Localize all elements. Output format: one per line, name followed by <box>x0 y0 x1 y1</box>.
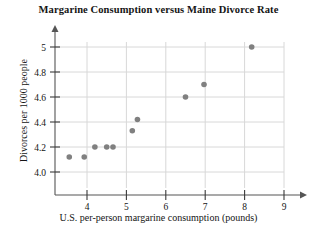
data-point-group <box>66 44 254 160</box>
data-point <box>201 82 207 88</box>
y-tick-label: 4.2 <box>34 143 46 153</box>
x-axis-arrow <box>300 192 307 199</box>
x-tick-label: 9 <box>282 202 287 212</box>
x-tick-label: 4 <box>85 202 90 212</box>
x-tick-label: 5 <box>124 202 129 212</box>
x-tick-label: 8 <box>242 202 247 212</box>
data-point <box>92 144 98 150</box>
gridlines <box>55 42 284 188</box>
x-tick-label: 7 <box>203 202 208 212</box>
data-point <box>81 154 87 160</box>
x-tick-label: 6 <box>163 202 168 212</box>
y-axis-arrow <box>52 25 59 32</box>
chart-figure: Margarine Consumption versus Maine Divor… <box>0 0 317 236</box>
data-point <box>104 144 110 150</box>
y-tick-labels: 4.04.24.44.64.85 <box>34 43 46 178</box>
data-point <box>183 94 189 100</box>
y-axis-label: Divorces per 1000 people <box>18 36 29 186</box>
x-axis-label: U.S. per-person margarine consumption (p… <box>0 212 317 223</box>
y-tick-label: 5 <box>41 43 46 53</box>
y-tick-label: 4.6 <box>34 93 46 103</box>
data-point <box>110 144 116 150</box>
data-point <box>249 44 255 50</box>
y-tick-label: 4.0 <box>34 168 46 178</box>
y-tick-label: 4.4 <box>34 118 46 128</box>
data-point <box>135 117 141 123</box>
scatter-plot: 456789 4.04.24.44.64.85 <box>0 0 317 236</box>
data-point <box>66 154 72 160</box>
data-point <box>130 128 136 134</box>
y-tick-label: 4.8 <box>34 68 46 78</box>
x-tick-labels: 456789 <box>85 202 287 212</box>
